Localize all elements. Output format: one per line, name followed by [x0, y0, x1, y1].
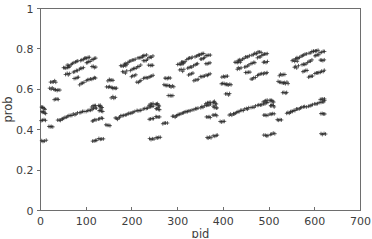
data-point: [151, 63, 155, 67]
x-tick-label: 600: [304, 215, 325, 228]
data-point: [297, 64, 301, 68]
data-point: [215, 106, 219, 110]
data-point: [265, 71, 269, 75]
data-point: [55, 89, 59, 93]
y-tick-label: 0: [27, 205, 34, 218]
x-tick-label: 0: [37, 215, 44, 228]
y-tick-label: 0.4: [16, 124, 34, 137]
x-tick-label: 100: [76, 215, 97, 228]
y-axis-title: prob: [1, 96, 15, 122]
data-point: [285, 91, 289, 95]
y-tick-label: 0.2: [16, 164, 34, 177]
data-point: [304, 105, 308, 109]
x-tick-label: 200: [121, 215, 142, 228]
x-tick-label: 700: [350, 215, 371, 228]
plot-canvas: 010020030040050060070000.20.40.60.81 pid…: [0, 0, 372, 238]
data-point: [284, 91, 288, 95]
x-tick-label: 500: [259, 215, 280, 228]
ticks-group: [37, 9, 361, 211]
x-axis-title: pid: [192, 227, 210, 239]
data-points-group: [39, 48, 327, 143]
data-point: [238, 60, 242, 64]
scatter-plot-figure: 010020030040050060070000.20.40.60.81 pid…: [0, 0, 372, 238]
y-tick-label: 1: [27, 3, 34, 16]
x-tick-label: 400: [213, 215, 234, 228]
data-point: [264, 72, 268, 76]
data-point: [165, 121, 169, 125]
y-tick-label: 0.8: [16, 43, 34, 56]
data-point: [154, 115, 158, 119]
x-tick-label: 300: [167, 215, 188, 228]
data-point: [44, 138, 48, 142]
data-point: [58, 88, 62, 92]
y-tick-label: 0.6: [16, 83, 34, 96]
